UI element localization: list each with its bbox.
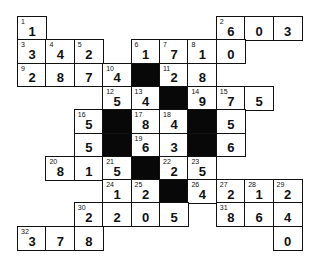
grid-cell[interactable]: 104 <box>102 63 132 88</box>
grid-cell[interactable]: 8 <box>74 226 104 251</box>
cell-digit: 3 <box>274 25 302 39</box>
cell-digit: 0 <box>217 48 245 62</box>
grid-cell[interactable]: 165 <box>74 109 104 134</box>
cell-digit: 5 <box>103 95 131 109</box>
cell-digit: 7 <box>160 48 188 62</box>
grid-cell[interactable]: 7 <box>74 63 104 88</box>
grid-cell[interactable]: 323 <box>17 226 47 251</box>
grid-cell[interactable]: 6 <box>244 202 274 227</box>
cell-digit: 8 <box>217 211 245 225</box>
grid-cell[interactable]: 208 <box>45 156 75 181</box>
cell-digit: 8 <box>132 118 160 132</box>
cell-digit: 5 <box>217 118 245 132</box>
cell-digit: 7 <box>46 235 74 249</box>
cell-digit: 6 <box>217 141 245 155</box>
grid-cell[interactable]: 3 <box>159 133 189 158</box>
grid-cell[interactable]: 318 <box>216 202 246 227</box>
grid-cell[interactable]: 3 <box>273 16 303 41</box>
cell-digit: 4 <box>188 188 216 202</box>
cell-digit: 2 <box>75 211 103 225</box>
grid-cell[interactable]: 112 <box>159 63 189 88</box>
grid-cell[interactable]: 5 <box>244 86 274 111</box>
grid-cell[interactable]: 272 <box>216 179 246 204</box>
cell-digit: 5 <box>103 165 131 179</box>
grid-cell[interactable]: 0 <box>244 16 274 41</box>
grid-cell[interactable]: 5 <box>74 133 104 158</box>
cell-digit: 5 <box>75 141 103 155</box>
grid-cell[interactable]: 0 <box>216 39 246 64</box>
black-cell <box>159 179 189 204</box>
cell-digit: 1 <box>103 188 131 202</box>
grid-cell[interactable]: 178 <box>131 109 161 134</box>
cell-digit: 5 <box>245 95 273 109</box>
cell-digit: 1 <box>75 165 103 179</box>
black-cell <box>187 133 217 158</box>
cell-digit: 3 <box>18 235 46 249</box>
grid-cell[interactable]: 134 <box>131 86 161 111</box>
grid-cell[interactable]: 11 <box>17 16 47 41</box>
grid-cell[interactable]: 7 <box>45 226 75 251</box>
cell-digit: 8 <box>46 165 74 179</box>
cell-digit: 4 <box>103 71 131 85</box>
grid-cell[interactable]: 302 <box>74 202 104 227</box>
grid-cell[interactable]: 6 <box>216 133 246 158</box>
cell-digit: 8 <box>188 71 216 85</box>
grid-cell[interactable]: 196 <box>131 133 161 158</box>
grid-cell[interactable]: 184 <box>159 109 189 134</box>
cell-digit: 7 <box>217 95 245 109</box>
cell-digit: 0 <box>274 235 302 249</box>
grid-cell[interactable]: 215 <box>102 156 132 181</box>
grid-cell[interactable]: 157 <box>216 86 246 111</box>
grid-cell[interactable]: 81 <box>187 39 217 64</box>
cell-digit: 5 <box>75 118 103 132</box>
cell-digit: 2 <box>75 48 103 62</box>
grid-cell[interactable]: 125 <box>102 86 132 111</box>
grid-cell[interactable]: 0 <box>131 202 161 227</box>
cell-digit: 1 <box>245 188 273 202</box>
grid-cell[interactable]: 0 <box>273 226 303 251</box>
grid-cell[interactable]: 4 <box>273 202 303 227</box>
black-cell <box>131 156 161 181</box>
cell-digit: 0 <box>132 211 160 225</box>
grid-cell[interactable]: 8 <box>45 63 75 88</box>
grid-cell[interactable]: 235 <box>187 156 217 181</box>
cell-digit: 6 <box>132 141 160 155</box>
cell-digit: 2 <box>160 71 188 85</box>
grid-cell[interactable]: 33 <box>17 39 47 64</box>
grid-cell[interactable]: 264 <box>187 179 217 204</box>
grid-cell[interactable]: 92 <box>17 63 47 88</box>
cell-digit: 7 <box>75 71 103 85</box>
cell-digit: 6 <box>245 211 273 225</box>
cell-digit: 4 <box>160 118 188 132</box>
grid-cell[interactable]: 61 <box>131 39 161 64</box>
grid-cell[interactable]: 2 <box>102 202 132 227</box>
cell-digit: 5 <box>188 165 216 179</box>
cell-digit: 1 <box>188 48 216 62</box>
grid-cell[interactable]: 5 <box>159 202 189 227</box>
grid-cell[interactable]: 77 <box>159 39 189 64</box>
grid-cell[interactable]: 252 <box>131 179 161 204</box>
grid-cell[interactable]: 292 <box>273 179 303 204</box>
grid-cell[interactable]: 5 <box>216 109 246 134</box>
cell-digit: 2 <box>274 188 302 202</box>
grid-cell[interactable]: 26 <box>216 16 246 41</box>
cell-digit: 2 <box>18 71 46 85</box>
cell-digit: 2 <box>132 188 160 202</box>
cell-digit: 1 <box>132 48 160 62</box>
grid-cell[interactable]: 1 <box>74 156 104 181</box>
cell-digit: 2 <box>217 188 245 202</box>
cell-digit: 8 <box>75 235 103 249</box>
grid-cell[interactable]: 281 <box>244 179 274 204</box>
grid-cell[interactable]: 222 <box>159 156 189 181</box>
cell-digit: 4 <box>46 48 74 62</box>
grid-cell[interactable]: 52 <box>74 39 104 64</box>
grid-cell[interactable]: 241 <box>102 179 132 204</box>
black-cell <box>187 109 217 134</box>
cell-digit: 3 <box>160 141 188 155</box>
grid-cell[interactable]: 149 <box>187 86 217 111</box>
cell-digit: 3 <box>18 48 46 62</box>
black-cell <box>131 63 161 88</box>
cell-digit: 4 <box>274 211 302 225</box>
grid-cell[interactable]: 44 <box>45 39 75 64</box>
grid-cell[interactable]: 8 <box>187 63 217 88</box>
